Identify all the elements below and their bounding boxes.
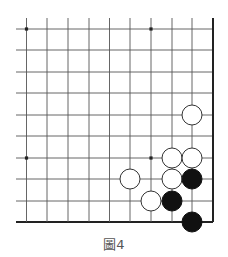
go-board <box>0 0 228 257</box>
white-stone <box>120 169 140 189</box>
white-stone <box>162 169 182 189</box>
white-stone <box>182 148 202 168</box>
white-stone <box>162 148 182 168</box>
black-stone <box>182 212 202 232</box>
black-stone <box>162 191 182 211</box>
figure-caption: 圖4 <box>0 234 228 253</box>
white-stone <box>141 191 161 211</box>
star-point <box>25 27 28 30</box>
black-stone <box>182 169 202 189</box>
star-point <box>149 156 152 159</box>
star-point <box>25 156 28 159</box>
star-point <box>149 27 152 30</box>
white-stone <box>182 105 202 125</box>
